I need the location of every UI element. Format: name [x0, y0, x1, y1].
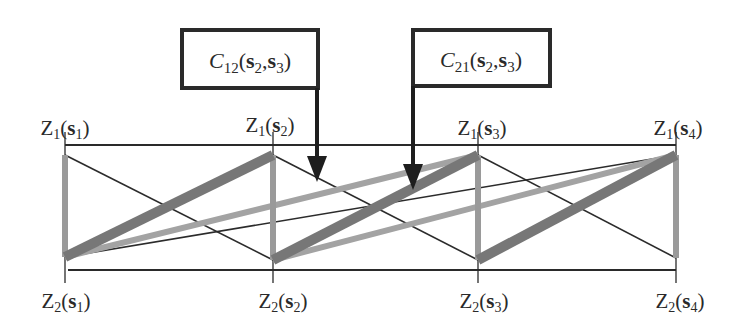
node-label-z1-s2: Z1(s2) — [245, 113, 294, 139]
node-label-z1-s4: Z1(s4) — [653, 116, 702, 142]
edge-z2s2-z1s4 — [273, 155, 676, 260]
node-label-z2-s3: Z2(s3) — [459, 289, 508, 315]
node-label-z1-s1: Z1(s1) — [40, 116, 89, 142]
node-label-z2-s4: Z2(s4) — [655, 289, 704, 315]
node-label-z2-s1: Z2(s1) — [41, 289, 90, 315]
top-axis-ticks — [65, 132, 676, 155]
node-label-z1-s3: Z1(s3) — [457, 116, 506, 142]
node-label-z2-s2: Z2(s2) — [258, 289, 307, 315]
diagram-canvas: C12(s2,s3) C21(s2,s3) Z1(s1) Z1(s2) Z1(s… — [0, 0, 744, 335]
arrow-down-icon — [307, 156, 327, 182]
